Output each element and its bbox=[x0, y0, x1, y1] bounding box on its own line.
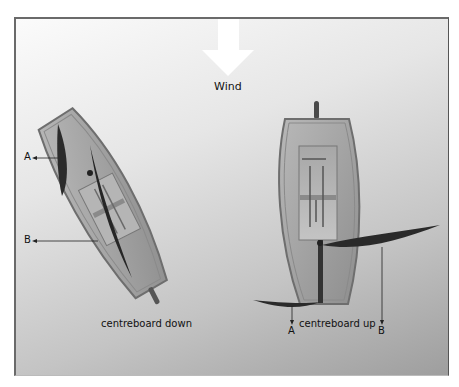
marker-label-b-left: B bbox=[24, 234, 31, 245]
caption-centreboard-up: centreboard up bbox=[299, 318, 376, 329]
caption-centreboard-down: centreboard down bbox=[101, 318, 192, 329]
marker-label-b-right: B bbox=[378, 325, 385, 336]
marker-b-left bbox=[32, 239, 98, 243]
marker-label-a-right: A bbox=[288, 325, 295, 336]
boat-centreboard-up bbox=[279, 101, 359, 304]
marker-a-right bbox=[290, 306, 294, 325]
cockpit bbox=[299, 146, 337, 240]
wind-arrow-icon bbox=[202, 19, 254, 76]
rudder bbox=[314, 101, 319, 119]
marker-label-a-left: A bbox=[24, 151, 31, 162]
wind-label: Wind bbox=[214, 80, 242, 93]
sailing-diagram bbox=[0, 0, 459, 387]
marker-b-right bbox=[380, 247, 384, 325]
rudder bbox=[148, 286, 161, 304]
